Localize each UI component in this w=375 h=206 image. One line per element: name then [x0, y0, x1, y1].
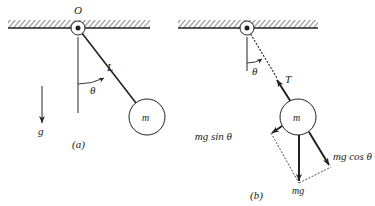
mass-label-b: m — [293, 112, 300, 123]
tangential-component-arrow-icon — [272, 126, 282, 133]
weight-label: mg — [292, 185, 304, 196]
tangential-component-label: mg sin θ — [195, 130, 233, 142]
angle-arc-b — [247, 59, 262, 63]
force-parallelogram — [271, 133, 331, 183]
caption-b: (b) — [250, 189, 263, 202]
pendulum-diagram: O L θ m g (a) — [0, 0, 375, 206]
angle-label-b: θ — [252, 65, 258, 77]
pivot-label: O — [74, 4, 82, 16]
panel-b: θ T m mg sin θ mg cos θ mg (b) — [178, 20, 373, 202]
tension-label: T — [285, 73, 292, 85]
mass-label-a: m — [142, 112, 149, 123]
radial-component-label: mg cos θ — [333, 150, 373, 162]
radial-component-arrow-icon — [309, 132, 329, 165]
caption-a: (a) — [72, 138, 85, 151]
pivot-icon-a — [71, 21, 85, 35]
angle-label-a: θ — [90, 84, 96, 96]
gravity-label: g — [38, 125, 44, 137]
panel-a: O L θ m g (a) — [8, 4, 165, 151]
pivot-icon-b — [240, 21, 254, 35]
length-label: L — [106, 61, 113, 73]
